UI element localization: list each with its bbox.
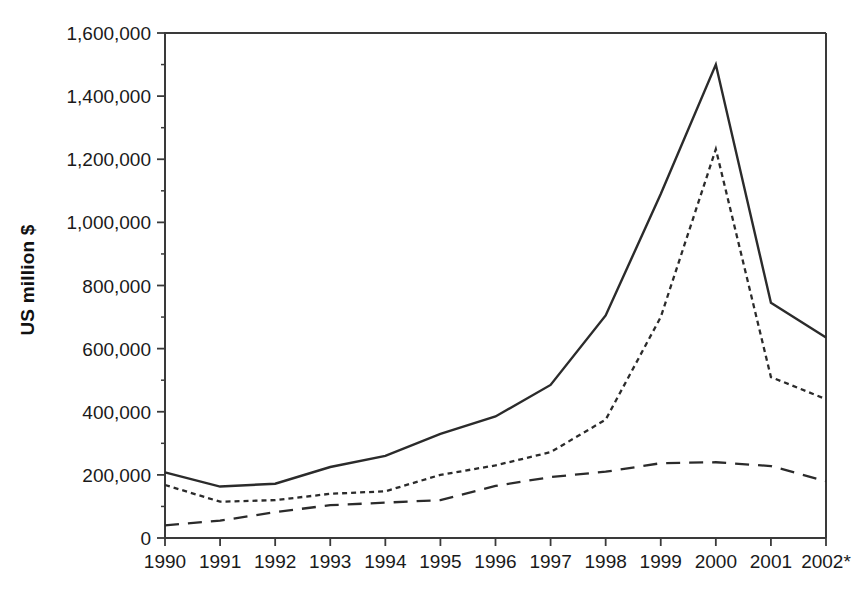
x-tick-label: 1994 <box>364 551 407 572</box>
x-tick-label: 1990 <box>144 551 186 572</box>
x-axis-ticks <box>165 538 826 546</box>
y-tick-label: 800,000 <box>82 276 151 297</box>
x-tick-label: 1992 <box>254 551 296 572</box>
y-tick-label: 600,000 <box>82 339 151 360</box>
x-tick-label: 1995 <box>419 551 461 572</box>
x-tick-label: 1993 <box>309 551 351 572</box>
y-axis-ticks <box>157 33 165 538</box>
plot-area: 0200,000400,000600,000800,0001,000,0001,… <box>0 0 853 593</box>
x-tick-label: 1999 <box>640 551 682 572</box>
data-series-group <box>165 65 826 526</box>
y-tick-label: 0 <box>140 528 151 549</box>
series-line-series-solid <box>165 65 826 487</box>
y-tick-label: 1,000,000 <box>66 212 151 233</box>
x-tick-label: 2001 <box>750 551 792 572</box>
y-tick-label: 1,200,000 <box>66 149 151 170</box>
x-axis-tick-labels: 1990199119921993199419951996199719981999… <box>144 551 852 572</box>
x-tick-label: 2002* <box>801 551 851 572</box>
y-tick-label: 200,000 <box>82 465 151 486</box>
y-tick-label: 1,600,000 <box>66 23 151 44</box>
x-tick-label: 1996 <box>474 551 516 572</box>
x-tick-label: 1997 <box>529 551 571 572</box>
series-line-series-dashed <box>165 462 826 525</box>
y-tick-label: 400,000 <box>82 402 151 423</box>
x-tick-label: 2000 <box>695 551 737 572</box>
y-axis-tick-labels: 0200,000400,000600,000800,0001,000,0001,… <box>66 23 151 549</box>
y-tick-label: 1,400,000 <box>66 86 151 107</box>
x-tick-label: 1991 <box>199 551 241 572</box>
x-tick-label: 1998 <box>585 551 627 572</box>
line-chart-figure: US million $ 0200,000400,000600,000800,0… <box>0 0 853 593</box>
series-line-series-dotted <box>165 149 826 502</box>
